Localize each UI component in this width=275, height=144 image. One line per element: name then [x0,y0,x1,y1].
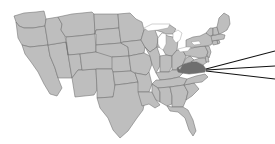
state-wyoming[interactable] [66,34,96,55]
us-state-map[interactable] [0,0,275,144]
state-indiana[interactable] [160,55,172,72]
state-kansas[interactable] [112,56,131,72]
state-alabama[interactable] [158,87,172,106]
state-new-mexico[interactable] [96,69,115,98]
state-missouri[interactable] [129,53,152,75]
state-minnesota[interactable] [118,13,144,43]
state-north-carolina[interactable] [184,74,208,85]
state-florida[interactable] [167,106,196,136]
callout-line-lower [206,71,275,79]
state-south-dakota[interactable] [95,28,121,45]
state-maine[interactable] [217,13,230,34]
state-arizona[interactable] [72,69,97,97]
state-georgia[interactable] [170,85,188,107]
map-screenshot: United States state map Virginia [0,0,275,144]
state-montana[interactable] [58,12,95,37]
